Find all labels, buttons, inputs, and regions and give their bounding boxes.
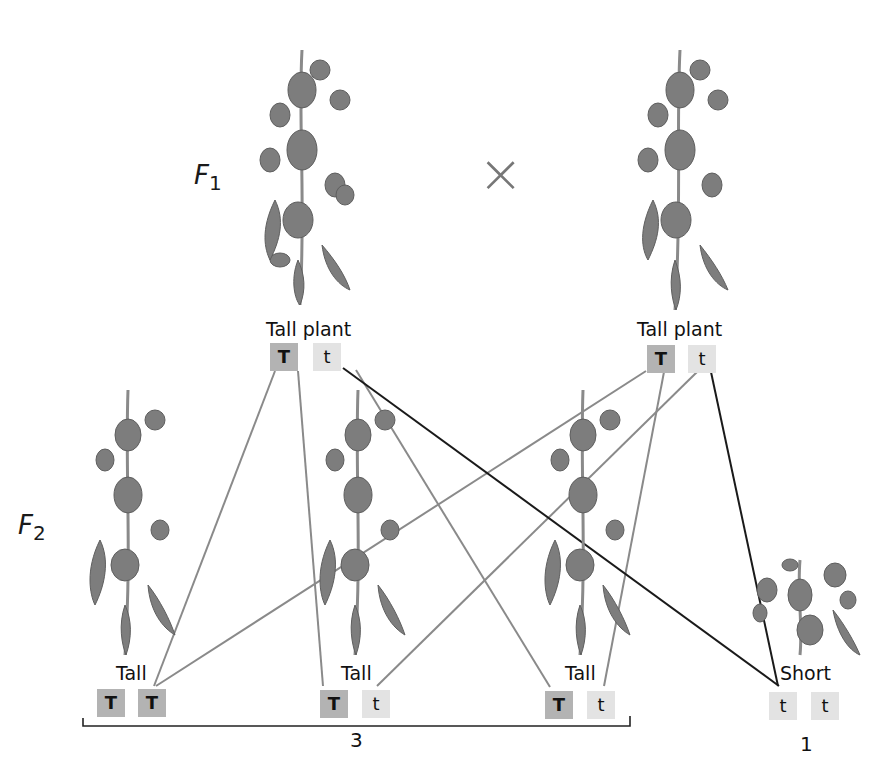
- f1-parent-plant-right: [620, 30, 750, 315]
- parent-right-label: Tall plant: [637, 318, 722, 340]
- tall-count: 3: [350, 728, 363, 752]
- short-count: 1: [800, 732, 813, 756]
- parent-left-allele-2: t: [313, 343, 341, 371]
- offspring-2-allele-1: T: [320, 690, 348, 718]
- offspring-1-label: Tall: [116, 662, 147, 684]
- f2-plant-tt-dominant: [70, 380, 190, 660]
- offspring-3-label: Tall: [565, 662, 596, 684]
- parent-left-label: Tall plant: [266, 318, 351, 340]
- offspring-2-label: Tall: [341, 662, 372, 684]
- f2-plant-short: [745, 545, 865, 665]
- offspring-4-allele-1: t: [769, 692, 797, 720]
- parent-right-allele-1: T: [647, 345, 675, 373]
- offspring-2-allele-2: t: [362, 690, 390, 718]
- offspring-3-allele-1: T: [545, 691, 573, 719]
- f1-generation-label: F1: [194, 160, 222, 195]
- offspring-4-label: Short: [780, 662, 831, 684]
- offspring-4-allele-2: t: [811, 692, 839, 720]
- offspring-1-allele-2: T: [138, 689, 166, 717]
- parent-right-allele-2: t: [688, 345, 716, 373]
- f1-parent-plant-left: [240, 20, 370, 310]
- offspring-3-allele-2: t: [587, 691, 615, 719]
- f2-plant-tt-hetero-1: [300, 380, 420, 660]
- f2-generation-label: F2: [18, 510, 46, 545]
- cross-icon: ×: [478, 147, 523, 201]
- offspring-1-allele-1: T: [97, 689, 125, 717]
- parent-left-allele-1: T: [270, 343, 298, 371]
- f2-plant-tt-hetero-2: [525, 380, 645, 660]
